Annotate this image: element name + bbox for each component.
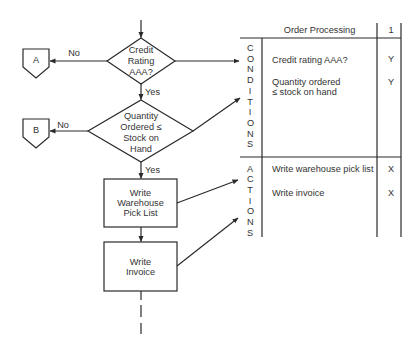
decision-1-no-label: No	[62, 48, 86, 59]
action-1-value: X	[377, 164, 405, 175]
process-1-line: Write	[104, 188, 177, 198]
decision-1-text: Credit Rating AAA?	[111, 45, 171, 78]
condition-2-text: Quantity ordered ≤ stock on hand	[272, 77, 340, 97]
decision-2-text: Quantity Ordered ≤ Stock on Hand	[106, 111, 176, 155]
process-2-text: Write Invoice	[104, 257, 177, 277]
decision-2-no-label: No	[51, 120, 75, 131]
condition-2-line: ≤ stock on hand	[272, 87, 340, 97]
map-arrow-action-2	[177, 218, 238, 266]
action-2-text: Write invoice	[272, 188, 324, 199]
process-1-line: Warehouse	[104, 198, 177, 208]
process-1-line: Pick List	[104, 208, 177, 218]
conditions-stub-label: CONDITIONS	[247, 43, 253, 150]
condition-1-value: Y	[377, 54, 405, 65]
action-1-text: Write warehouse pick list	[272, 164, 373, 175]
decision-1-line: Credit	[111, 45, 171, 56]
process-2-line: Write	[104, 257, 177, 267]
decision-2-yes-label: Yes	[145, 165, 160, 176]
condition-2-value: Y	[377, 77, 405, 88]
map-arrow-action-1	[177, 180, 238, 203]
process-2-line: Invoice	[104, 267, 177, 277]
actions-stub-label: ACTIONS	[247, 164, 253, 239]
decision-1-line: Rating	[111, 56, 171, 67]
map-arrow-condition-2	[193, 98, 240, 131]
order-processing-figure: Credit Rating AAA? No A Yes Quantity Ord…	[0, 0, 418, 352]
decision-2-line: Ordered ≤	[106, 122, 176, 133]
connector-b-label: B	[26, 125, 46, 136]
decision-1-line: AAA?	[111, 67, 171, 78]
action-2-value: X	[377, 188, 405, 199]
decision-2-line: Hand	[106, 144, 176, 155]
table-rule-header: 1	[377, 25, 405, 36]
decision-2-line: Stock on	[106, 133, 176, 144]
decision-2-line: Quantity	[106, 111, 176, 122]
process-1-text: Write Warehouse Pick List	[104, 188, 177, 218]
connector-a-label: A	[26, 55, 46, 66]
condition-2-line: Quantity ordered	[272, 77, 340, 87]
table-title: Order Processing	[262, 25, 377, 36]
decision-1-yes-label: Yes	[145, 87, 160, 98]
condition-1-text: Credit rating AAA?	[272, 55, 348, 66]
